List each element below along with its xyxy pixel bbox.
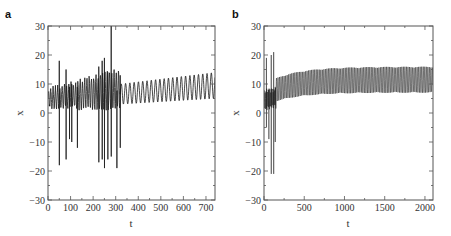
- panel-b-plot-area: 0500100015002000−30−20−100102030: [245, 21, 435, 214]
- x-tick-label: 300: [108, 202, 123, 213]
- y-tick-label: −10: [29, 137, 45, 148]
- x-tick-label: 1500: [375, 202, 395, 213]
- x-tick-label: 100: [63, 202, 78, 213]
- panel-b-x-axis-label: t: [346, 217, 349, 229]
- x-tick-label: 0: [46, 202, 51, 213]
- x-tick-label: 200: [86, 202, 101, 213]
- x-tick-label: 2000: [415, 202, 435, 213]
- y-tick-label: 20: [35, 50, 45, 61]
- data-line: [264, 52, 433, 174]
- x-tick-label: 1000: [334, 202, 354, 213]
- panel-b: b 0500100015002000−30−20−100102030 t x: [229, 8, 435, 229]
- x-tick-label: 700: [198, 202, 213, 213]
- x-tick-label: 500: [297, 202, 312, 213]
- y-tick-label: −10: [245, 137, 261, 148]
- y-tick-label: 0: [40, 108, 45, 119]
- x-tick-label: 0: [262, 202, 267, 213]
- x-tick-label: 500: [153, 202, 168, 213]
- y-tick-label: −20: [245, 166, 261, 177]
- y-tick-label: 20: [251, 50, 261, 61]
- panel-a: a 0100200300400500600700−30−20−100102030…: [5, 8, 215, 229]
- panel-a-x-axis-label: t: [129, 217, 132, 229]
- panel-b-label: b: [232, 8, 239, 20]
- panel-a-label: a: [5, 8, 12, 20]
- panel-a-y-axis-label: x: [13, 110, 25, 116]
- x-tick-label: 600: [176, 202, 191, 213]
- y-tick-label: −30: [29, 195, 45, 206]
- y-tick-label: 30: [35, 21, 45, 32]
- plot-frame: [48, 26, 215, 200]
- y-tick-label: 0: [256, 108, 261, 119]
- plot-frame: [264, 26, 433, 200]
- y-tick-label: 10: [35, 79, 45, 90]
- y-tick-label: 10: [251, 79, 261, 90]
- y-tick-label: 30: [251, 21, 261, 32]
- y-tick-label: −30: [245, 195, 261, 206]
- panel-a-plot-area: 0100200300400500600700−30−20−100102030: [29, 21, 215, 214]
- y-tick-label: −20: [29, 166, 45, 177]
- panel-b-y-axis-label: x: [229, 110, 241, 116]
- figure: a 0100200300400500600700−30−20−100102030…: [0, 0, 451, 236]
- data-line: [48, 26, 215, 168]
- x-tick-label: 400: [131, 202, 146, 213]
